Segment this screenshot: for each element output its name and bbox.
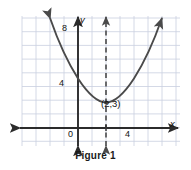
- figure-container: y x 8 4 0 4 (2,3) Figure 1: [0, 0, 191, 170]
- coordinate-graph: [0, 0, 191, 170]
- figure-caption: Figure 1: [0, 150, 191, 161]
- grid-horizontal-lines: [22, 18, 180, 141]
- grid-vertical-lines: [22, 16, 176, 146]
- y-tick-label-4: 4: [59, 78, 64, 88]
- x-tick-label-4: 4: [125, 129, 130, 139]
- vertex-coordinate-label: (2,3): [101, 98, 121, 109]
- y-tick-label-8: 8: [62, 23, 67, 33]
- x-axis-label: x: [170, 118, 175, 129]
- y-axis-label: y: [80, 14, 85, 25]
- origin-label: 0: [68, 129, 73, 139]
